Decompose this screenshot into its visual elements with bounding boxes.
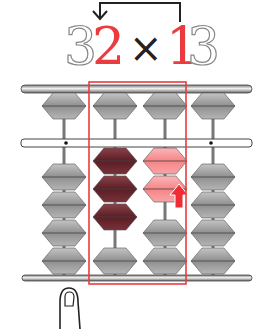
abacus-rods bbox=[64, 90, 213, 278]
earth-beads-rod-2 bbox=[93, 148, 137, 274]
abacus-bottom-frame bbox=[22, 275, 252, 281]
unit-dot-icon bbox=[209, 141, 213, 145]
transfer-arrow-icon bbox=[93, 3, 180, 22]
finger-icon bbox=[60, 288, 80, 329]
abacus-diagram bbox=[0, 0, 267, 336]
abacus-top-frame bbox=[21, 85, 252, 93]
unit-dot-icon bbox=[64, 141, 68, 145]
heaven-beads bbox=[42, 93, 235, 119]
abacus-reckoning-bar bbox=[21, 139, 252, 147]
